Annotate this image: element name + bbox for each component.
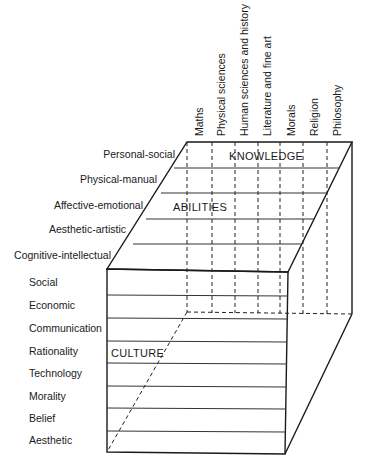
knowledge-item: Morals — [285, 104, 297, 136]
front-face — [107, 269, 288, 454]
culture-item: Morality — [29, 390, 67, 402]
knowledge-item: Maths — [193, 107, 205, 136]
hidden-edges — [107, 142, 352, 452]
culture-lines — [107, 295, 288, 432]
knowledge-labels: Maths Physical sciences Human sciences a… — [193, 3, 343, 136]
right-bottom-edge — [285, 314, 352, 454]
culture-item: Social — [29, 276, 58, 288]
knowledge-item: Literature and fine art — [261, 36, 273, 136]
knowledge-item: Philosophy — [331, 84, 343, 136]
culture-title: CULTURE — [111, 347, 164, 359]
culture-labels: Social Economic Communication Rationalit… — [29, 276, 102, 446]
culture-item: Technology — [29, 367, 83, 379]
knowledge-item: Physical sciences — [215, 53, 227, 136]
culture-item: Rationality — [29, 345, 79, 357]
knowledge-item: Human sciences and history — [238, 3, 250, 136]
knowledge-title: KNOWLEDGE — [229, 150, 303, 162]
culture-item: Communication — [29, 322, 102, 334]
culture-item: Economic — [29, 299, 75, 311]
knowledge-item: Religion — [308, 98, 320, 136]
ability-item: Personal-social — [103, 148, 175, 160]
cube-diagram: Maths Physical sciences Human sciences a… — [0, 0, 374, 468]
ability-item: Aesthetic-artistic — [49, 223, 126, 235]
ability-item: Physical-manual — [80, 173, 157, 185]
abilities-title: ABILITIES — [173, 201, 227, 213]
culture-item: Belief — [29, 412, 55, 424]
ability-item: Cognitive-intellectual — [14, 249, 111, 261]
culture-item: Aesthetic — [29, 434, 72, 446]
ability-item: Affective-emotional — [54, 199, 143, 211]
